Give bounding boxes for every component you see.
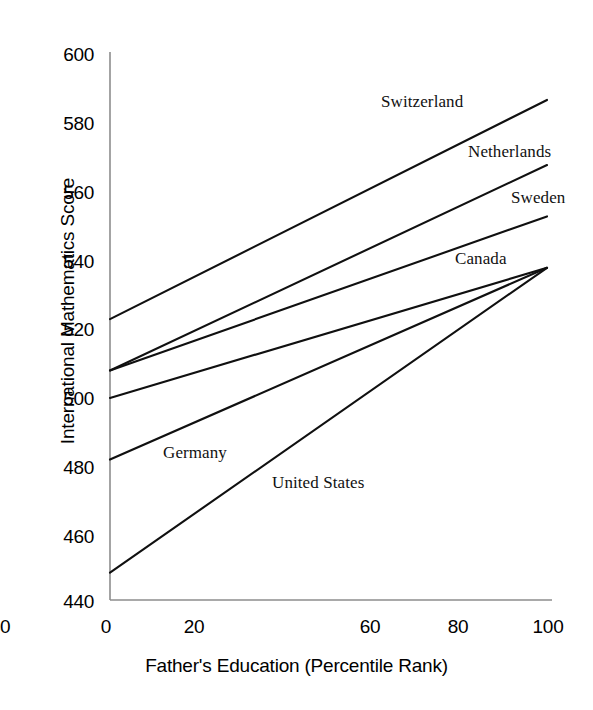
mathematics-score-chart: International Mathematics Score 600 580 … <box>0 0 593 710</box>
series-label-sweden: Sweden <box>511 188 565 208</box>
series-line-germany <box>110 268 547 460</box>
series-label-canada: Canada <box>455 249 507 269</box>
series-label-germany: Germany <box>163 443 227 463</box>
series-lines <box>110 100 547 573</box>
plot-area <box>0 0 593 710</box>
series-line-sweden <box>110 216 547 370</box>
series-label-united-states: United States <box>272 473 364 493</box>
series-label-netherlands: Netherlands <box>468 142 551 162</box>
x-axis-title: Father's Education (Percentile Rank) <box>0 655 593 677</box>
series-line-united-states <box>110 268 547 573</box>
series-label-switzerland: Switzerland <box>381 92 463 112</box>
